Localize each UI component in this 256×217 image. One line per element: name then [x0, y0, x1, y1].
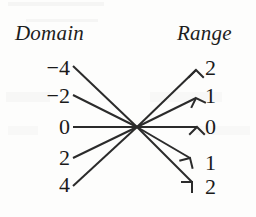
mapping-arrows [0, 0, 256, 217]
arrowhead-icon [181, 182, 192, 193]
arrowhead-icon [179, 158, 192, 171]
mapping-diagram: Domain Range −4 −2 0 2 4 2 1 0 1 2 [0, 0, 256, 217]
mapping-arrow-0 [73, 66, 204, 127]
arrowhead-icon [189, 127, 205, 143]
mapping-arrow-4 [73, 127, 192, 193]
arrowhead-icon [188, 70, 204, 86]
mapping-arrow-1 [73, 95, 206, 127]
